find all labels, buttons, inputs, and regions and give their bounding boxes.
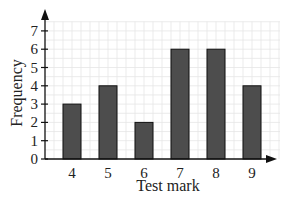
y-axis-arrow-icon	[41, 9, 49, 20]
bar-4	[63, 104, 81, 159]
x-tick-label: 5	[104, 165, 112, 181]
x-tick-label: 8	[212, 165, 220, 181]
y-tick-label: 3	[31, 96, 39, 112]
y-tick-label: 1	[31, 133, 39, 149]
bar-9	[243, 86, 261, 159]
y-tick-label: 7	[31, 23, 39, 39]
bar-8	[207, 49, 225, 159]
x-tick-label: 9	[248, 165, 256, 181]
y-tick-label: 0	[31, 151, 39, 167]
y-tick-label: 2	[31, 114, 39, 130]
x-tick-label: 4	[68, 165, 76, 181]
bar-6	[135, 122, 153, 159]
y-axis-label: Frequency	[8, 59, 26, 127]
x-axis-label: Test mark	[136, 177, 199, 194]
bar-7	[171, 49, 189, 159]
bar-5	[99, 86, 117, 159]
x-axis-arrow-icon	[266, 155, 277, 163]
y-tick-label: 5	[31, 60, 39, 76]
bar-chart: 01234567 456789 Test mark Frequency	[0, 0, 291, 202]
y-tick-label: 6	[31, 41, 39, 57]
y-tick-label: 4	[31, 78, 39, 94]
